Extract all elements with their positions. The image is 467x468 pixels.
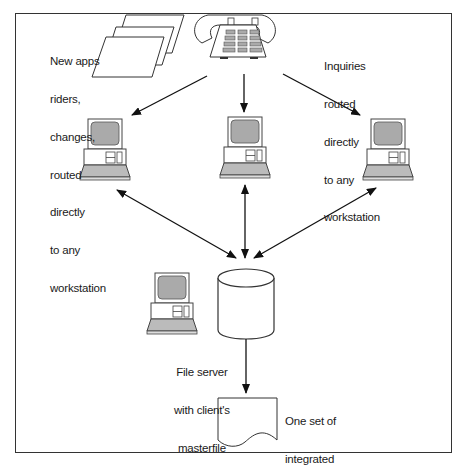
database-cylinder-icon [218, 269, 274, 339]
file-server-pc-icon [147, 273, 197, 334]
label-line: Inquiries [324, 60, 380, 73]
workstation-center-icon [220, 117, 270, 178]
label-line: changes, [50, 131, 106, 144]
label-line: One set of [285, 415, 342, 428]
label-file-server: File server with client's masterfile [174, 341, 230, 467]
label-new-apps: New apps riders, changes, routed directl… [50, 30, 106, 307]
arrow-left-database [117, 190, 236, 258]
label-line: to any [50, 244, 106, 257]
label-line: workstation [324, 211, 380, 224]
label-line: File server [174, 366, 230, 379]
label-line: directly [324, 136, 380, 149]
arrow-phone-to-left [132, 76, 207, 115]
label-inquiries: Inquiries routed directly to any worksta… [324, 35, 380, 237]
label-line: routed [50, 169, 106, 182]
label-reports: One set of integrated reports can be pul… [285, 390, 342, 468]
telephone-icon [195, 15, 276, 59]
label-line: to any [324, 174, 380, 187]
label-line: riders, [50, 93, 106, 106]
label-line: with client's [174, 404, 230, 417]
label-line: directly [50, 206, 106, 219]
label-line: masterfile [174, 442, 230, 455]
label-line: routed [324, 98, 380, 111]
label-line: New apps [50, 55, 106, 68]
label-line: workstation [50, 282, 106, 295]
label-line: integrated [285, 453, 342, 466]
